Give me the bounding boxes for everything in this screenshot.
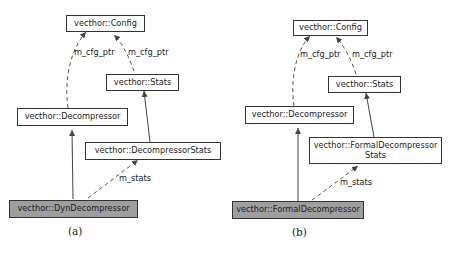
node-decompressor-stats-b-label: vecthor::FormalDecompressor Stats bbox=[314, 141, 438, 160]
edge-label-cfg-ptr-right-b: m_cfg_ptr bbox=[352, 49, 393, 59]
edge-label-stats-a: m_stats bbox=[119, 173, 151, 183]
edge-label-cfg-ptr-left-a: m_cfg_ptr bbox=[74, 47, 115, 57]
caption-a: (a) bbox=[68, 225, 82, 237]
edge-label-stats-b: m_stats bbox=[340, 177, 372, 187]
node-decompressor-a: vecthor::Decompressor bbox=[17, 108, 128, 126]
node-stats-a: vecthor::Stats bbox=[106, 74, 179, 91]
caption-b: (b) bbox=[292, 226, 307, 238]
node-config-b: vecthor::Config bbox=[293, 20, 368, 36]
edge-label-cfg-ptr-left-b: m_cfg_ptr bbox=[300, 49, 341, 59]
edge-label-cfg-ptr-right-a: m_cfg_ptr bbox=[128, 47, 169, 57]
node-main-a: vecthor::DynDecompressor bbox=[9, 200, 138, 218]
node-decompressor-stats-a: vecthor::DecompressorStats bbox=[85, 142, 221, 160]
node-config-a: vecthor::Config bbox=[66, 15, 145, 32]
node-stats-b: vecthor::Stats bbox=[328, 76, 401, 93]
node-main-b: vecthor::FormalDecompressor bbox=[232, 201, 364, 219]
node-decompressor-stats-b: vecthor::FormalDecompressor Stats bbox=[309, 137, 442, 164]
node-decompressor-b: vecthor::Decompressor bbox=[245, 106, 354, 124]
